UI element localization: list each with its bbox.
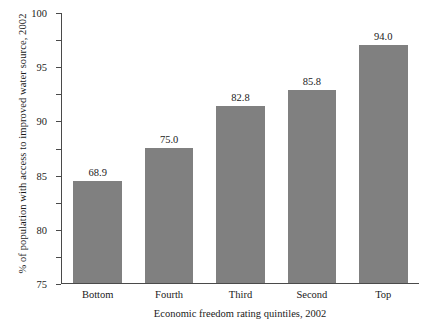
- bar-value-label: 75.0: [133, 134, 204, 145]
- bar-bottom: [73, 181, 122, 283]
- y-tick-mark: 80: [56, 121, 61, 122]
- y-tick-mark: 65: [56, 203, 61, 204]
- y-tick-mark: 55: [56, 257, 61, 258]
- bar-value-label: 82.8: [205, 92, 276, 103]
- y-tick-mark: 85: [56, 94, 61, 95]
- y-tick-label: 95: [37, 62, 48, 73]
- bar-value-label: 68.9: [62, 167, 133, 178]
- bar-group: 68.9Bottom: [62, 13, 133, 283]
- plot-area: 50556065707580859095100 68.9Bottom75.0Fo…: [61, 13, 419, 284]
- x-axis-title: Economic freedom rating quintiles, 2002: [61, 308, 419, 319]
- bar-value-label: 85.8: [276, 76, 347, 87]
- y-tick-mark: 90: [56, 67, 61, 68]
- y-tick-label: 85: [37, 170, 48, 181]
- bar-second: [288, 90, 337, 283]
- y-tick-mark: 70: [56, 176, 61, 177]
- bar-group: 75.0Fourth: [133, 13, 204, 283]
- y-tick-mark: 50: [56, 284, 61, 285]
- y-tick-mark: 95: [56, 40, 61, 41]
- bar-group: 94.0Top: [348, 13, 419, 283]
- y-tick-label: 100: [31, 8, 47, 19]
- bar-chart: % of population with access to improved …: [0, 0, 432, 329]
- bar-fourth: [145, 148, 194, 283]
- y-tick-label: 80: [37, 224, 48, 235]
- y-tick-mark: 75: [56, 149, 61, 150]
- x-tick-label: Third: [205, 289, 276, 300]
- y-tick-mark: 60: [56, 230, 61, 231]
- x-tick-label: Fourth: [133, 289, 204, 300]
- y-tick-label: 90: [37, 116, 48, 127]
- y-tick-mark: 100: [56, 13, 61, 14]
- x-tick-label: Bottom: [62, 289, 133, 300]
- bar-top: [359, 45, 408, 283]
- bars-layer: 68.9Bottom75.0Fourth82.8Third85.8Second9…: [62, 13, 419, 283]
- bar-group: 85.8Second: [276, 13, 347, 283]
- bar-group: 82.8Third: [205, 13, 276, 283]
- y-tick-label: 75: [37, 279, 48, 290]
- x-tick-label: Top: [348, 289, 419, 300]
- bar-third: [216, 106, 265, 283]
- y-axis-title: % of population with access to improved …: [17, 4, 28, 284]
- x-axis-line: [61, 283, 419, 284]
- x-tick-label: Second: [276, 289, 347, 300]
- bar-value-label: 94.0: [348, 31, 419, 42]
